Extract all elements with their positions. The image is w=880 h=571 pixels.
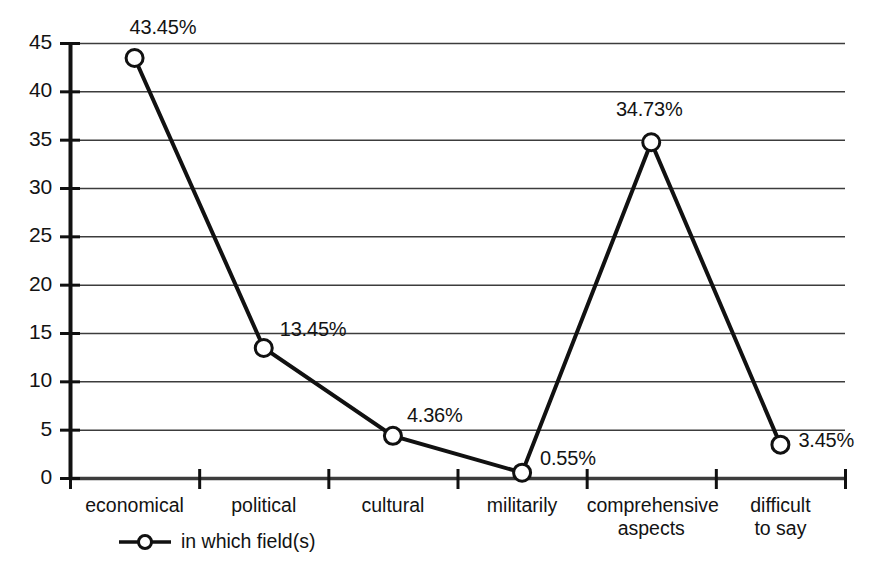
x-axis-tick-label: economical	[70, 494, 199, 517]
data-point-marker[interactable]	[126, 49, 143, 66]
data-point-label: 13.45%	[280, 318, 347, 341]
data-point-label: 34.73%	[589, 98, 709, 121]
data-point-label: 3.45%	[798, 429, 854, 452]
y-axis-tick-label: 0	[0, 465, 52, 489]
legend: in which field(s)	[118, 530, 315, 553]
data-point-marker[interactable]	[643, 134, 660, 151]
x-axis-tick-label: comprehensive aspects	[587, 494, 716, 540]
plot-area	[0, 0, 880, 571]
y-axis-tick-label: 45	[0, 30, 52, 54]
data-point-label: 0.55%	[540, 447, 596, 470]
x-axis-tick-label: political	[199, 494, 328, 517]
data-point-marker[interactable]	[772, 436, 789, 453]
y-axis-tick-label: 35	[0, 127, 52, 151]
legend-label: in which field(s)	[181, 530, 315, 553]
y-axis-tick-label: 25	[0, 223, 52, 247]
x-axis-tick-label: difficult to say	[716, 494, 845, 540]
line-circle-marker-icon	[118, 532, 172, 552]
data-point-label: 4.36%	[407, 404, 463, 427]
data-point-marker[interactable]	[514, 464, 531, 481]
line-chart: 051015202530354045 economicalpoliticalcu…	[0, 0, 880, 571]
y-axis-tick-label: 10	[0, 368, 52, 392]
data-point-marker[interactable]	[255, 339, 272, 356]
data-point-marker[interactable]	[384, 427, 401, 444]
x-axis-tick-label: militarily	[458, 494, 587, 517]
y-axis-tick-label: 15	[0, 320, 52, 344]
y-axis-tick-label: 40	[0, 78, 52, 102]
y-axis-tick-label: 5	[0, 417, 52, 441]
x-axis-tick-label: cultural	[328, 494, 457, 517]
y-axis-tick-label: 20	[0, 272, 52, 296]
y-axis-tick-label: 30	[0, 175, 52, 199]
data-point-label: 43.45%	[130, 16, 197, 39]
